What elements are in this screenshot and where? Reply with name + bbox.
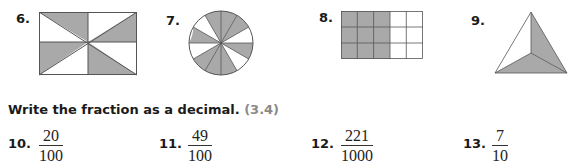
problem-number-10: 10. bbox=[8, 136, 31, 151]
numerator: 49 bbox=[192, 127, 208, 144]
denominator: 100 bbox=[188, 147, 212, 164]
problem-number-9: 9. bbox=[471, 13, 485, 28]
problem-number-11: 11. bbox=[159, 136, 182, 151]
fraction-10: 20 100 bbox=[39, 127, 63, 164]
problem-number-7: 7. bbox=[166, 13, 180, 28]
fraction-bar bbox=[341, 145, 373, 146]
problem-number-13: 13. bbox=[463, 136, 486, 151]
rectangle-fraction-figure bbox=[39, 12, 137, 77]
numerator: 20 bbox=[43, 127, 59, 144]
grid-fraction-figure bbox=[341, 11, 423, 60]
fraction-bar bbox=[188, 145, 212, 146]
fraction-bar bbox=[39, 145, 63, 146]
numerator: 7 bbox=[496, 127, 504, 144]
fraction-11: 49 100 bbox=[188, 127, 212, 164]
lesson-reference: (3.4) bbox=[244, 102, 279, 117]
denominator: 10 bbox=[492, 147, 508, 164]
problem-number-8: 8. bbox=[319, 10, 333, 25]
denominator: 1000 bbox=[341, 147, 373, 164]
fraction-bar bbox=[492, 145, 508, 146]
triangle-fraction-figure bbox=[493, 11, 569, 75]
fraction-12: 221 1000 bbox=[341, 127, 373, 164]
section-instruction: Write the fraction as a decimal. (3.4) bbox=[8, 102, 279, 117]
problem-number-12: 12. bbox=[311, 136, 334, 151]
instruction-text: Write the fraction as a decimal. bbox=[8, 102, 240, 117]
fraction-13: 7 10 bbox=[492, 127, 508, 164]
denominator: 100 bbox=[39, 147, 63, 164]
numerator: 221 bbox=[345, 127, 369, 144]
problem-number-6: 6. bbox=[16, 11, 30, 26]
circle-fraction-figure bbox=[188, 10, 254, 76]
